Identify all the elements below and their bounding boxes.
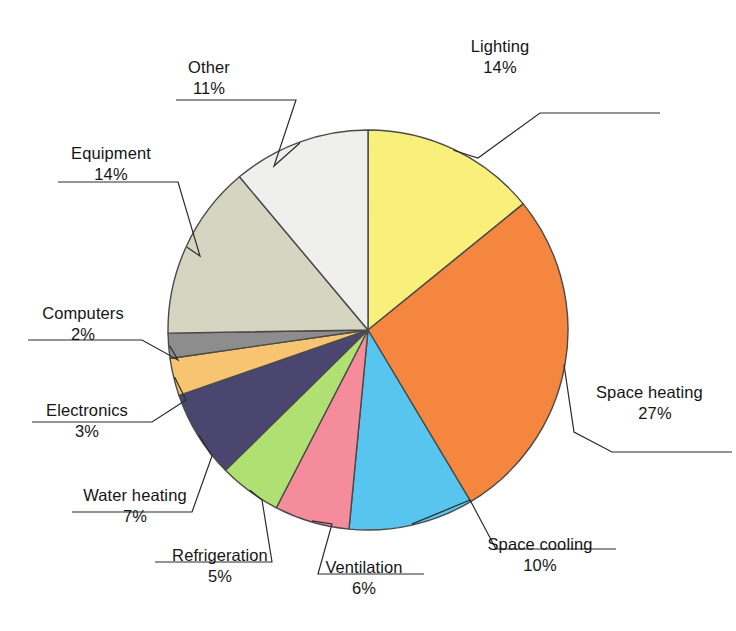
label-lighting-pct: 14%	[440, 57, 560, 78]
pie-slices-group	[168, 130, 568, 530]
label-ventilation-name: Ventilation	[312, 557, 416, 578]
label-refrigeration-name: Refrigeration	[156, 545, 284, 566]
label-lighting-name: Lighting	[440, 36, 560, 57]
label-other: Other 11%	[166, 57, 252, 99]
label-ventilation-pct: 6%	[312, 578, 416, 599]
label-equipment-name: Equipment	[48, 143, 174, 164]
label-equipment-pct: 14%	[48, 164, 174, 185]
label-space-cooling: Space cooling 10%	[477, 534, 603, 576]
label-water-heating-pct: 7%	[70, 506, 200, 527]
label-electronics-pct: 3%	[32, 421, 142, 442]
label-electronics-name: Electronics	[32, 400, 142, 421]
label-space-heating-name: Space heating	[596, 382, 736, 403]
leader-line-equipment	[58, 182, 200, 256]
label-space-heating: Space heating 27%	[596, 382, 736, 424]
label-refrigeration: Refrigeration 5%	[156, 545, 284, 587]
label-electronics: Electronics 3%	[32, 400, 142, 442]
label-refrigeration-pct: 5%	[156, 566, 284, 587]
label-other-pct: 11%	[166, 78, 252, 99]
label-space-cooling-pct: 10%	[477, 555, 603, 576]
label-space-cooling-name: Space cooling	[477, 534, 603, 555]
pie-chart-figure: Lighting 14% Space heating 27% Space coo…	[0, 0, 736, 631]
label-computers-pct: 2%	[27, 324, 139, 345]
leader-line-lighting	[454, 113, 661, 158]
label-computers-name: Computers	[27, 303, 139, 324]
label-other-name: Other	[166, 57, 252, 78]
label-computers: Computers 2%	[27, 303, 139, 345]
label-water-heating-name: Water heating	[70, 485, 200, 506]
label-ventilation: Ventilation 6%	[312, 557, 416, 599]
label-space-heating-pct: 27%	[596, 403, 714, 424]
label-equipment: Equipment 14%	[48, 143, 174, 185]
label-lighting: Lighting 14%	[440, 36, 560, 78]
label-water-heating: Water heating 7%	[70, 485, 200, 527]
